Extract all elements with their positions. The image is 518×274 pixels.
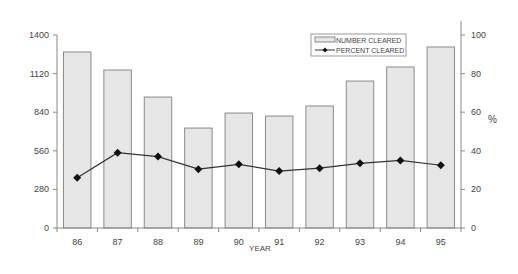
bar <box>144 97 171 228</box>
legend: NUMBER CLEAREDPERCENT CLEARED <box>311 34 406 56</box>
x-tick-label: 90 <box>234 237 244 247</box>
right-tick-label: 80 <box>471 69 481 79</box>
bar-series-number-cleared <box>63 47 454 228</box>
x-tick-label: 91 <box>274 237 284 247</box>
bar <box>225 113 252 228</box>
legend-label-percent-cleared: PERCENT CLEARED <box>336 47 404 54</box>
bar <box>185 128 212 228</box>
bar <box>63 52 90 228</box>
left-tick-label: 1120 <box>30 69 49 79</box>
legend-bar-swatch-icon <box>315 37 335 42</box>
left-tick-label: 280 <box>34 184 49 194</box>
left-tick-label: 560 <box>34 146 49 156</box>
bar <box>427 47 454 228</box>
x-tick-label: 95 <box>436 237 446 247</box>
combo-chart: 028056084011201400020406080100%868788899… <box>0 0 518 274</box>
right-tick-label: 100 <box>471 30 486 40</box>
x-tick-label: 87 <box>113 237 123 247</box>
right-axis-label: % <box>488 114 497 125</box>
x-tick-label: 94 <box>395 237 405 247</box>
legend-label-number-cleared: NUMBER CLEARED <box>336 37 401 44</box>
left-tick-label: 1400 <box>29 30 49 40</box>
left-tick-label: 840 <box>34 107 49 117</box>
x-tick-label: 92 <box>315 237 325 247</box>
right-tick-label: 40 <box>471 146 481 156</box>
chart-container: 028056084011201400020406080100%868788899… <box>0 0 518 274</box>
right-tick-label: 20 <box>471 184 481 194</box>
right-tick-label: 0 <box>471 223 476 233</box>
x-tick-label: 86 <box>72 237 82 247</box>
x-tick-label: 93 <box>355 237 365 247</box>
bar <box>346 81 373 228</box>
x-tick-label: 88 <box>153 237 163 247</box>
left-tick-label: 0 <box>44 223 49 233</box>
x-tick-label: 89 <box>193 237 203 247</box>
x-axis-title: YEAR <box>249 244 271 253</box>
bar <box>387 67 414 228</box>
right-tick-label: 60 <box>471 107 481 117</box>
